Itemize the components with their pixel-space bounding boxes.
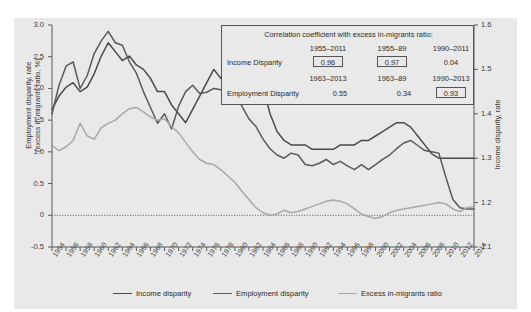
y-axis-left-tick-label: 1.0	[18, 147, 44, 156]
legend-label-excess-in-migrants-ratio: Excess in-migrants ratio	[361, 289, 442, 298]
y-axis-right-title: Income disparity, rate	[493, 75, 502, 195]
correlation-income-period-3: 1990–2011	[424, 44, 478, 53]
y-axis-left-title: Employment disparity, rate (excess in-mi…	[24, 10, 42, 200]
y-axis-left-tick-label: 0	[18, 210, 44, 219]
y-axis-right-tick-label: 1.2	[481, 198, 507, 207]
y-axis-left-tick-label: 0.5	[18, 179, 44, 188]
correlation-employment-period-3: 1990–2013	[424, 74, 478, 83]
correlation-income-value-2: 0.97	[377, 56, 407, 67]
correlation-income-period-1: 1955–2011	[301, 44, 355, 53]
legend-item-excess-in-migrants-ratio: Excess in-migrants ratio	[338, 289, 442, 298]
y-axis-left-title-line1: Employment disparity, rate	[24, 10, 33, 200]
correlation-employment-value-3: 0.93	[436, 87, 466, 98]
correlation-box-title: Correlation coefficient with excess in-m…	[222, 30, 475, 39]
correlation-income-value-1: 0.96	[313, 56, 343, 67]
y-axis-left-tick-label: 1.5	[18, 115, 44, 124]
correlation-employment-value-1: 0.55	[313, 89, 367, 98]
y-axis-right-tick-label: 1.3	[481, 153, 507, 162]
correlation-employment-period-1: 1963–2013	[301, 74, 355, 83]
correlation-employment-value-2: 0.34	[377, 89, 431, 98]
correlation-employment-period-2: 1963–89	[365, 74, 419, 83]
y-axis-left-tick-label: -0.5	[18, 242, 44, 251]
legend-swatch-excess-in-migrants-ratio	[338, 293, 357, 294]
legend-item-employment-disparity: Employment disparity	[213, 289, 309, 298]
correlation-income-period-2: 1955–89	[365, 44, 419, 53]
y-axis-right-tick-label: 1.6	[481, 20, 507, 29]
correlation-employment-label: Employment Disparity	[227, 89, 299, 98]
y-axis-left-tick-label: 2.5	[18, 52, 44, 61]
y-axis-right-tick-label: 1.5	[481, 64, 507, 73]
correlation-box: Correlation coefficient with excess in-m…	[221, 25, 474, 105]
y-axis-left-tick-label: 3.0	[18, 20, 44, 29]
legend-label-employment-disparity: Employment disparity	[236, 289, 309, 298]
y-axis-left-tick-label: 2.0	[18, 83, 44, 92]
chart-root: Employment disparity, rate (excess in-mi…	[0, 0, 531, 312]
correlation-income-value-3: 0.04	[424, 58, 478, 67]
correlation-income-label: Income Disparity	[227, 58, 282, 67]
legend-label-income-disparity: Income disparity	[136, 289, 191, 298]
y-axis-left-title-line2: (excess in-migrants ratio, %)	[33, 10, 42, 200]
y-axis-right-tick-label: 1.4	[481, 109, 507, 118]
legend-swatch-income-disparity	[113, 293, 132, 294]
legend-swatch-employment-disparity	[213, 293, 232, 294]
legend-item-income-disparity: Income disparity	[113, 289, 191, 298]
